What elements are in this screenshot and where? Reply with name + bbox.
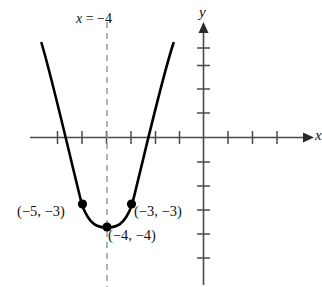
axis-of-symmetry-value: = −4: [82, 11, 112, 26]
x-axis-label: x: [315, 128, 322, 143]
y-axis: [199, 22, 209, 285]
point-label-right: (−3, −3): [134, 204, 182, 219]
parabola-figure: x = −4 y x (−5, −3) (−3, −3) (−4, −4): [0, 0, 322, 287]
plot-point-left: [78, 199, 87, 208]
axis-of-symmetry-label: x = −4: [76, 12, 112, 26]
point-label-vertex: (−4, −4): [108, 228, 156, 243]
x-axis: [30, 133, 314, 143]
y-axis-label: y: [199, 5, 206, 20]
graph-canvas: [0, 0, 322, 287]
point-label-left: (−5, −3): [17, 204, 65, 219]
